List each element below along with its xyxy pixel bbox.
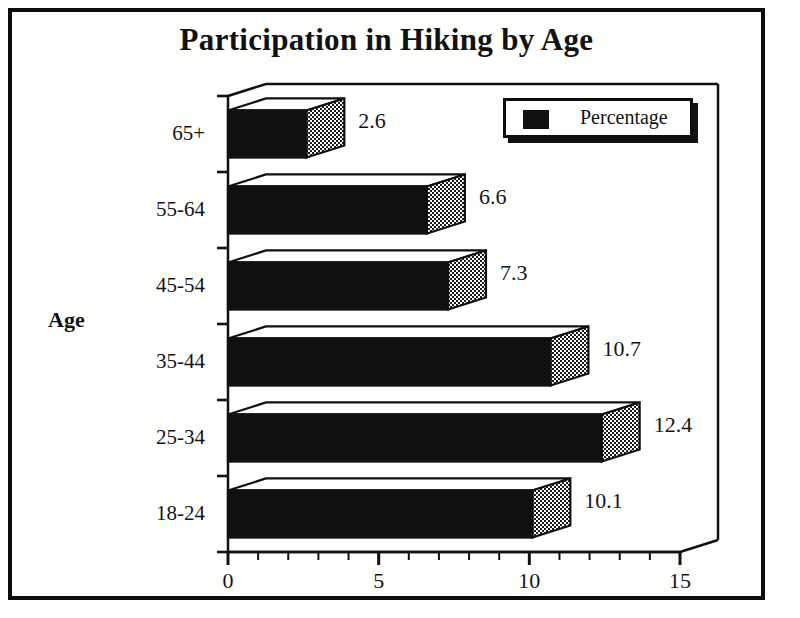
y-axis-category-label: 35-44 <box>75 349 205 374</box>
bar-value-label: 10.1 <box>584 488 623 514</box>
legend: Percentage <box>503 98 693 138</box>
bar-25-34[interactable] <box>228 402 640 461</box>
bar-value-label: 12.4 <box>654 412 693 438</box>
x-axis-tick-label: 0 <box>223 568 234 594</box>
x-axis-tick-label: 10 <box>518 568 540 594</box>
bar-top-face <box>228 326 588 338</box>
filled-square-icon <box>523 110 549 129</box>
bar-front-face <box>228 110 306 157</box>
legend-entry-label: Percentage <box>580 106 668 129</box>
bar-value-label: 2.6 <box>358 108 386 134</box>
bar-value-label: 10.7 <box>602 336 641 362</box>
bar-front-face <box>228 414 602 461</box>
y-axis-category-labels: 18-2425-3435-4445-5455-6465+ <box>75 0 205 618</box>
x-axis-tick-label: 15 <box>669 568 691 594</box>
bar-top-face <box>228 402 640 414</box>
y-axis-category-label: 18-24 <box>75 501 205 526</box>
bar-45-54[interactable] <box>228 250 486 309</box>
bar-35-44[interactable] <box>228 326 588 385</box>
chart-screenshot: Participation in Hiking by Age 18-2425- <box>0 0 800 618</box>
bar-front-face <box>228 338 550 385</box>
bar-front-face <box>228 262 448 309</box>
bar-top-face <box>228 478 570 490</box>
bar-65+[interactable] <box>228 98 344 157</box>
bar-18-24[interactable] <box>228 478 570 537</box>
x-axis-tick-label: 5 <box>373 568 384 594</box>
y-axis-category-label: 45-54 <box>75 273 205 298</box>
y-axis-category-label: 25-34 <box>75 425 205 450</box>
bar-front-face <box>228 186 427 233</box>
y-axis-ticks <box>217 96 228 552</box>
y-axis-title: Age <box>48 307 85 333</box>
bar-series-percentage <box>228 98 640 537</box>
bar-value-label: 6.6 <box>479 184 507 210</box>
y-axis-category-label: 55-64 <box>75 197 205 222</box>
bar-front-face <box>228 490 532 537</box>
bar-value-label: 7.3 <box>500 260 528 286</box>
bar-55-64[interactable] <box>228 174 465 233</box>
bar-top-face <box>228 250 486 262</box>
x-axis-ticks <box>228 552 680 565</box>
y-axis-category-label: 65+ <box>75 121 205 146</box>
